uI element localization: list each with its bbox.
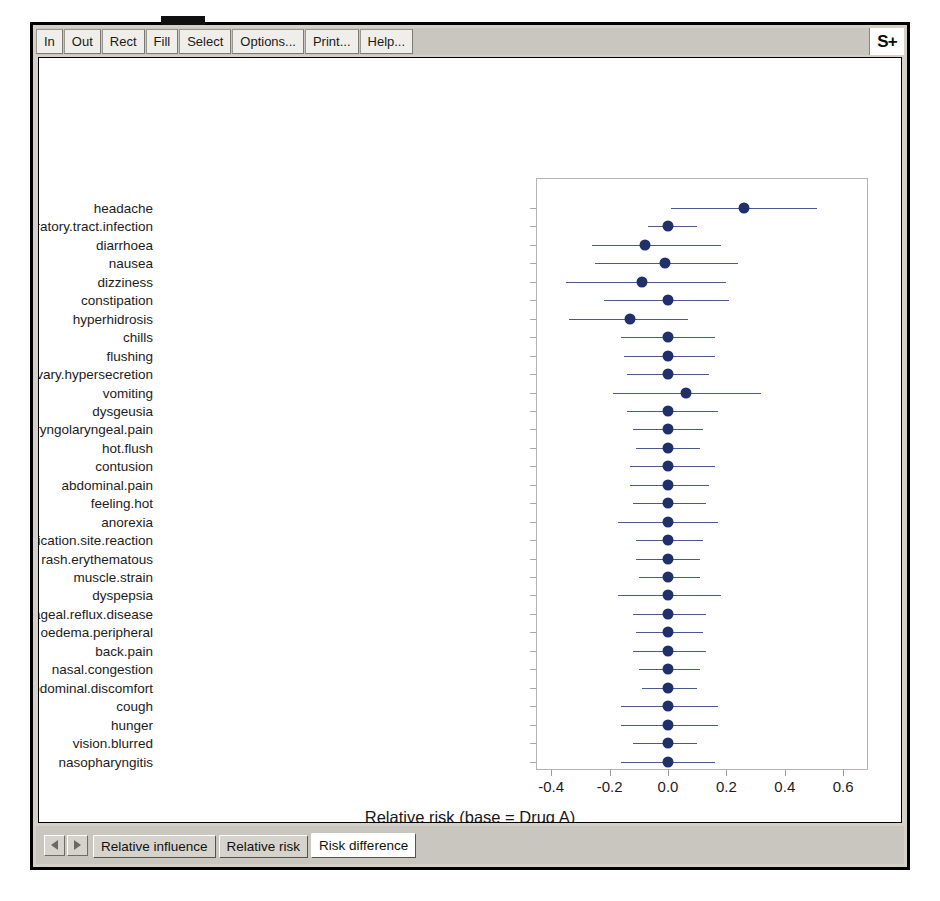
- forest-plot: Relative risk (base = Drug A) 90% interv…: [39, 58, 901, 822]
- estimate-marker: [663, 553, 674, 564]
- toolbar-button-zoom-in[interactable]: In: [36, 29, 63, 54]
- estimate-marker: [663, 701, 674, 712]
- y-axis-label: hunger: [111, 717, 153, 732]
- tab-relative-risk[interactable]: Relative risk: [219, 835, 309, 858]
- toolbar: InOutRectFillSelectOptions...Print...Hel…: [36, 28, 904, 55]
- y-axis-label: abdominal.pain: [61, 477, 153, 492]
- toolbar-button-fill[interactable]: Fill: [146, 29, 179, 54]
- toolbar-button-help[interactable]: Help...: [360, 29, 414, 54]
- x-axis-tick-label: 0.2: [716, 778, 737, 795]
- y-axis-label: gastrooesophageal.reflux.disease: [38, 606, 153, 621]
- x-axis-tick-label: 0.4: [774, 778, 795, 795]
- y-axis-tick: [530, 485, 536, 486]
- x-axis-caption: Relative risk (base = Drug A) 90% interv…: [39, 808, 901, 823]
- y-axis-label: nasal.congestion: [52, 662, 153, 677]
- x-axis-tick-label: -0.2: [597, 778, 623, 795]
- y-axis-tick: [530, 503, 536, 504]
- y-axis-label: abdominal.discomfort: [38, 680, 153, 695]
- y-axis-label: muscle.strain: [73, 570, 153, 585]
- y-axis-label: salivary.hypersecretion: [38, 367, 153, 382]
- estimate-marker: [663, 442, 674, 453]
- toolbar-button-zoom-out[interactable]: Out: [64, 29, 101, 54]
- toolbar-button-select[interactable]: Select: [179, 29, 231, 54]
- y-axis-tick: [530, 762, 536, 763]
- tab-scroll-left-button[interactable]: [44, 835, 65, 856]
- toolbar-button-print[interactable]: Print...: [305, 29, 359, 54]
- estimate-marker: [663, 608, 674, 619]
- estimate-marker: [663, 627, 674, 638]
- x-axis-tick: [610, 770, 611, 776]
- y-axis-label: application.site.reaction: [38, 533, 153, 548]
- x-axis-tick: [843, 770, 844, 776]
- x-axis-tick: [726, 770, 727, 776]
- screenshot-root: InOutRectFillSelectOptions...Print...Hel…: [0, 0, 940, 901]
- estimate-marker: [660, 258, 671, 269]
- tab-relative-influence[interactable]: Relative influence: [93, 835, 216, 858]
- y-axis-label: oedema.peripheral: [40, 625, 153, 640]
- y-axis-label: dyspepsia: [92, 588, 153, 603]
- estimate-marker: [663, 535, 674, 546]
- x-axis-tick-label: 0.6: [833, 778, 854, 795]
- toolbar-button-rect[interactable]: Rect: [102, 29, 145, 54]
- plot-canvas[interactable]: Relative risk (base = Drug A) 90% interv…: [38, 57, 902, 823]
- y-axis-label: upper.respiratory.tract.infection: [38, 219, 153, 234]
- interval-bar: [592, 245, 720, 246]
- estimate-marker: [663, 719, 674, 730]
- y-axis-label: back.pain: [95, 643, 153, 658]
- y-axis-label: vomiting: [103, 385, 153, 400]
- y-axis-label: feeling.hot: [91, 496, 153, 511]
- y-axis-label: hot.flush: [102, 440, 153, 455]
- estimate-marker: [663, 424, 674, 435]
- estimate-marker: [663, 590, 674, 601]
- y-axis-tick: [530, 429, 536, 430]
- y-axis-label: nausea: [109, 256, 153, 271]
- y-axis-label: cough: [116, 699, 153, 714]
- window-title-nub: [161, 16, 205, 25]
- y-axis-tick: [530, 208, 536, 209]
- estimate-marker: [663, 572, 674, 583]
- y-axis-label: rash.erythematous: [41, 551, 153, 566]
- y-axis-tick: [530, 300, 536, 301]
- estimate-marker: [663, 664, 674, 675]
- y-axis-label: diarrhoea: [96, 237, 153, 252]
- estimate-marker: [663, 461, 674, 472]
- estimate-marker: [663, 369, 674, 380]
- estimate-marker: [663, 738, 674, 749]
- toolbar-button-options[interactable]: Options...: [232, 29, 304, 54]
- x-axis-tick: [668, 770, 669, 776]
- tab-risk-difference[interactable]: Risk difference: [311, 833, 416, 858]
- estimate-marker: [663, 682, 674, 693]
- y-axis-tick: [530, 632, 536, 633]
- y-axis-label: dysgeusia: [92, 403, 153, 418]
- chevron-right-icon: [74, 840, 81, 850]
- plot-frame: [536, 178, 868, 770]
- y-axis-tick: [530, 466, 536, 467]
- y-axis-tick: [530, 595, 536, 596]
- x-axis-tick: [551, 770, 552, 776]
- y-axis-label: chills: [123, 330, 153, 345]
- estimate-marker: [663, 405, 674, 416]
- estimate-marker: [663, 221, 674, 232]
- y-axis-tick: [530, 226, 536, 227]
- x-axis-tick: [785, 770, 786, 776]
- y-axis-label: headache: [94, 201, 153, 216]
- x-axis-tick-label: 0.0: [658, 778, 679, 795]
- application-window: InOutRectFillSelectOptions...Print...Hel…: [30, 22, 910, 870]
- estimate-marker: [663, 756, 674, 767]
- estimate-marker: [639, 239, 650, 250]
- x-axis-tick-label: -0.4: [538, 778, 564, 795]
- y-axis-tick: [530, 688, 536, 689]
- y-axis-tick: [530, 743, 536, 744]
- y-axis-label: dizziness: [97, 274, 153, 289]
- y-axis-label: flushing: [106, 348, 153, 363]
- estimate-marker: [663, 516, 674, 527]
- tab-scroll-right-button[interactable]: [67, 835, 88, 856]
- y-axis-tick: [530, 356, 536, 357]
- y-axis-tick: [530, 263, 536, 264]
- y-axis-tick: [530, 651, 536, 652]
- y-axis-tick: [530, 706, 536, 707]
- estimate-marker: [663, 479, 674, 490]
- tab-strip: Relative influenceRelative riskRisk diff…: [36, 826, 904, 864]
- y-axis-tick: [530, 374, 536, 375]
- estimate-marker: [636, 276, 647, 287]
